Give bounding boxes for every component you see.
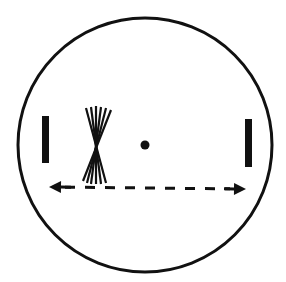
center-dot bbox=[141, 141, 150, 150]
diagram-canvas bbox=[0, 0, 286, 282]
arrow-dashed-shaft bbox=[65, 187, 230, 189]
left-bar bbox=[42, 116, 49, 163]
diagram-svg bbox=[0, 0, 286, 282]
right-bar bbox=[245, 119, 252, 167]
